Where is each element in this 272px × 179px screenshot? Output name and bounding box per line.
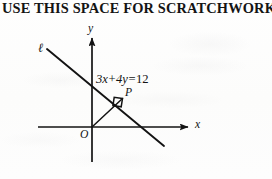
x-axis-label: x xyxy=(195,119,200,131)
equation-plus-sign: + xyxy=(108,72,116,86)
equation-equals-sign: = xyxy=(128,72,136,86)
equation-term-y: 4y xyxy=(116,72,128,86)
page-title: USE THIS SPACE FOR SCRATCHWORK. xyxy=(2,0,272,16)
line-l xyxy=(47,49,164,146)
coordinate-diagram: ℓ 3x+4y=12 P O x y xyxy=(0,16,272,179)
line-equation-label: 3x+4y=12 xyxy=(96,73,149,86)
equation-term-x: 3x xyxy=(96,72,108,86)
origin-label: O xyxy=(80,129,88,141)
scratchwork-page: USE THIS SPACE FOR SCRATCHWORK. ℓ 3x+4y=… xyxy=(0,0,272,179)
perpendicular-segment xyxy=(92,99,123,128)
y-axis-label: y xyxy=(88,23,93,35)
line-label-l: ℓ xyxy=(38,42,43,54)
equation-right-side: 12 xyxy=(136,72,149,86)
point-label-p: P xyxy=(125,87,132,99)
